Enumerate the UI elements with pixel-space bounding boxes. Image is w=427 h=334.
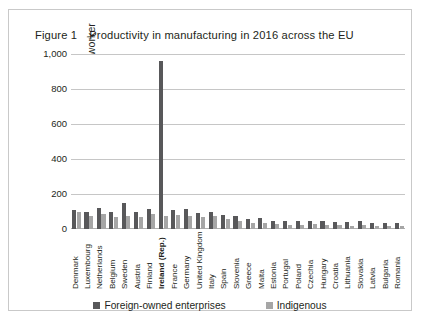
x-axis-tick-label: Poland [295,231,304,289]
bar-foreign-owned [258,218,262,229]
bar-foreign-owned [308,221,312,229]
bar-group [72,54,81,229]
x-axis-tick-label: Estonia [271,231,280,289]
bar-indigenous [201,217,205,229]
y-axis-tick-label: 800 [51,84,67,94]
bar-foreign-owned [134,212,138,229]
x-axis-tick-label: Ireland (Rep.) [159,231,168,289]
x-axis-tick-label: Lithuania [345,231,354,289]
x-axis-tick-label: Bulgaria [382,231,391,289]
bar-foreign-owned [345,222,349,229]
bar-group [84,54,93,229]
x-axis-tick-label: Netherlands [97,231,106,289]
bar-indigenous [238,221,242,229]
bar-group [184,54,193,229]
bar-foreign-owned [383,223,387,229]
bar-indigenous [275,224,279,229]
x-axis-tick-label: Austria [134,231,143,289]
bar-foreign-owned [233,216,237,229]
y-axis-tick-label: 400 [51,154,67,164]
x-axis-tick-label: Greece [246,231,255,289]
x-axis-labels: DenmarkLuxembourgNetherlandsBelgiumSwede… [71,231,405,289]
bar-indigenous [114,217,118,229]
bar-indigenous [350,226,354,230]
bar-indigenous [89,216,93,229]
bar-group [209,54,218,229]
bar-group [134,54,143,229]
plot-area [71,54,405,229]
bar-group [271,54,280,229]
x-axis-tick-label: Czechia [308,231,317,289]
bar-indigenous [188,216,192,229]
bar-indigenous [251,223,255,229]
x-axis-tick-label: Sweden [122,231,131,289]
legend-label: Indigenous [277,300,327,311]
bar-foreign-owned [159,61,163,229]
legend-swatch-foreign-owned [93,302,100,309]
bar-indigenous [213,216,217,229]
x-axis-tick-label: Croatia [333,231,342,289]
bar-foreign-owned [72,210,76,229]
bar-foreign-owned [271,221,275,229]
figure-caption: Figure 1Productivity in manufacturing in… [35,29,354,41]
bar-indigenous [288,225,292,229]
bar-group [345,54,354,229]
bar-indigenous [400,226,404,229]
x-axis-tick-label: Finland [146,231,155,289]
legend-swatch-indigenous [266,302,273,309]
bar-indigenous [151,214,155,229]
bar-foreign-owned [97,208,101,229]
bar-foreign-owned [395,223,399,229]
bar-foreign-owned [122,203,126,229]
x-axis-tick-label: Slovakia [357,231,366,289]
bar-group [358,54,367,229]
bar-series-container [71,54,405,229]
figure-number: Figure 1 [35,29,77,41]
x-axis-tick-label: Hungary [320,231,329,289]
bar-foreign-owned [358,221,362,229]
bar-indigenous [313,224,317,229]
bar-foreign-owned [184,209,188,229]
legend-label: Foreign-owned enterprises [104,300,225,311]
bar-group [296,54,305,229]
x-axis-tick-label: Spain [221,231,230,289]
bar-indigenous [300,225,304,229]
bar-foreign-owned [209,212,213,229]
x-axis-tick-label: Portugal [283,231,292,289]
bar-indigenous [362,225,366,229]
bar-indigenous [375,226,379,229]
bar-foreign-owned [296,221,300,229]
bar-indigenous [139,217,143,229]
x-axis-tick-label: Romania [395,231,404,289]
x-axis-tick-label: Malta [258,231,267,289]
bar-group [122,54,131,229]
x-axis-tick-label: France [171,231,180,289]
bar-indigenous [164,216,168,229]
x-axis-tick-label: Germany [184,231,193,289]
y-axis-tick-label: 600 [51,119,67,129]
x-axis-tick-label: United Kingdom [196,231,205,289]
y-axis-tick-label: 1,000 [43,49,67,59]
bar-group [109,54,118,229]
bar-indigenous [226,219,230,229]
bar-group [221,54,230,229]
bar-foreign-owned [320,221,324,229]
bar-foreign-owned [370,223,374,229]
x-axis-tick-label: Denmark [72,231,81,289]
bar-foreign-owned [246,219,250,230]
bar-group [233,54,242,229]
bar-foreign-owned [84,212,88,229]
bar-group [196,54,205,229]
bar-foreign-owned [283,221,287,229]
bar-foreign-owned [109,212,113,229]
figure-title: Productivity in manufacturing in 2016 ac… [89,29,353,41]
bar-foreign-owned [333,222,337,229]
x-axis-tick-label: Italy [208,231,217,289]
bar-indigenous [77,212,81,229]
bar-group [97,54,106,229]
y-axis-ticks: 02004006008001,000 [33,54,71,229]
bar-foreign-owned [221,215,225,229]
chart-plot: thousands of € per worker 02004006008001… [33,54,405,290]
bar-group [308,54,317,229]
x-axis-tick-label: Belgium [109,231,118,289]
